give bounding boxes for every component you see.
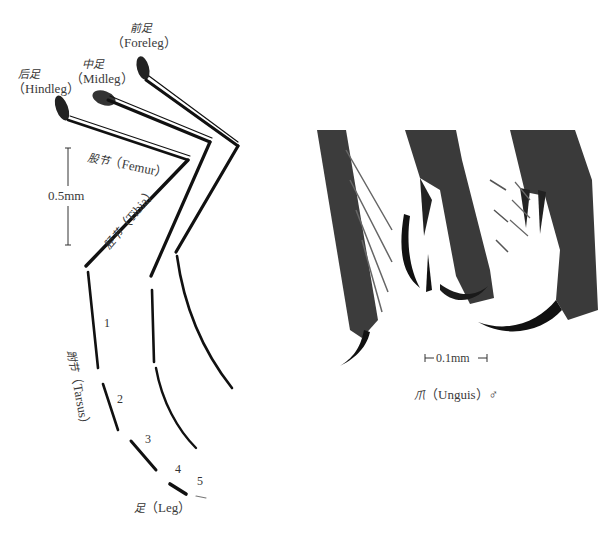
leg-figure-title: 足（Leg） xyxy=(134,501,191,516)
femur-label-cn: 股节 xyxy=(86,151,110,168)
foreleg-label-cn: 前足 xyxy=(111,22,171,36)
leg-figure-title-en: （Leg） xyxy=(145,500,191,515)
leg-figure-title-cn: 足 xyxy=(134,502,145,515)
unguis-micrograph-3 xyxy=(478,130,598,331)
tarsus-label-cn: 跗节 xyxy=(64,349,81,373)
hindleg-coxa xyxy=(52,94,72,123)
hindleg-label-en: （Hindleg） xyxy=(12,82,80,96)
unguis-figure-title-cn: 爪 xyxy=(414,389,425,402)
tarsal-segment-2: 2 xyxy=(117,392,123,407)
tarsal-segment-5: 5 xyxy=(197,474,203,489)
hindleg-label: 后足 （Hindleg） xyxy=(12,68,80,96)
foreleg-label-en: （Foreleg） xyxy=(111,36,171,50)
unguis-micrograph-1 xyxy=(317,130,392,366)
midleg xyxy=(108,96,212,448)
unguis-figure-title-en: （Unguis）♂ xyxy=(425,387,498,402)
unguis-figure-title: 爪（Unguis）♂ xyxy=(414,388,498,403)
scale-label-0-1mm: 0.1mm xyxy=(436,351,470,365)
tarsal-segment-1: 1 xyxy=(104,316,110,331)
foreleg-coxa xyxy=(134,55,152,81)
tarsal-segment-4: 4 xyxy=(175,462,181,477)
hindleg-label-cn: 后足 xyxy=(12,68,80,82)
foreleg-label: 前足 （Foreleg） xyxy=(111,22,171,50)
scale-label-0-5mm: 0.5mm xyxy=(48,189,84,203)
unguis-micrograph-2 xyxy=(401,130,508,304)
tarsal-segment-3: 3 xyxy=(145,432,151,447)
leg-anatomy-figure: 前足 （Foreleg） 中足 （Midleg） 后足 （Hindleg） 股节… xyxy=(0,0,614,539)
